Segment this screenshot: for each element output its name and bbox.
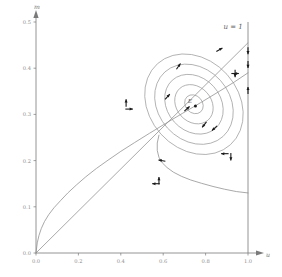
- x-axis-label: u: [266, 251, 270, 258]
- y-axis-arrowhead: [33, 10, 38, 18]
- boundary-arrow-1: [247, 47, 250, 54]
- closed-orbit-3: [153, 62, 236, 146]
- curve-separatrix-line: [36, 43, 248, 253]
- y-tick-label: 0.1: [23, 204, 31, 210]
- x-tick-label: 0.4: [117, 258, 126, 264]
- closed-orbit-2: [167, 77, 221, 132]
- closed-orbit-4: [138, 48, 249, 160]
- x-tick-label: 1.0: [244, 258, 252, 264]
- phase-plane-figure: 0.00.20.40.60.81.00.00.10.20.30.40.5umEu…: [0, 0, 282, 277]
- boundary-arrow-3: [247, 87, 250, 94]
- x-tick-label: 0.6: [159, 258, 167, 264]
- orbit-arrow-1: [176, 63, 180, 69]
- y-tick-label: 0.4: [23, 65, 32, 71]
- curve-nullcline-rising: [36, 73, 248, 253]
- equilibrium-point-marker: [194, 105, 197, 108]
- y-tick-label: 0.0: [23, 250, 31, 256]
- x-tick-label: 0.8: [201, 258, 209, 264]
- y-tick-label: 0.3: [23, 111, 31, 117]
- phase-plane-svg: 0.00.20.40.60.81.00.00.10.20.30.40.5umEu…: [0, 0, 282, 277]
- y-tick-label: 0.2: [23, 158, 31, 164]
- df-arrow-left-upper-right: [125, 108, 133, 111]
- df-arrow-right-lower-left: [221, 152, 229, 155]
- orbit-arrow-5: [212, 126, 217, 131]
- x-tick-label: 0.0: [32, 258, 40, 264]
- boundary-arrow-2: [247, 61, 250, 68]
- x-tick-label: 0.2: [74, 258, 82, 264]
- y-axis-label: m: [34, 3, 40, 10]
- closed-orbit-5: [124, 34, 263, 175]
- orbit-arrow-7: [216, 48, 222, 52]
- df-arrow-right-lower-down: [229, 153, 232, 161]
- df-arrow-left-upper-up: [125, 99, 128, 107]
- orbit-arrow-2: [165, 94, 170, 99]
- y-tick-label: 0.5: [23, 19, 31, 25]
- equilibrium-point-label: E: [187, 98, 192, 104]
- x-axis-arrowhead: [256, 250, 264, 255]
- u-equals-one-label: u = 1: [224, 23, 243, 31]
- curve-nullcline-descending: [157, 135, 248, 193]
- closed-orbit-1: [181, 91, 207, 117]
